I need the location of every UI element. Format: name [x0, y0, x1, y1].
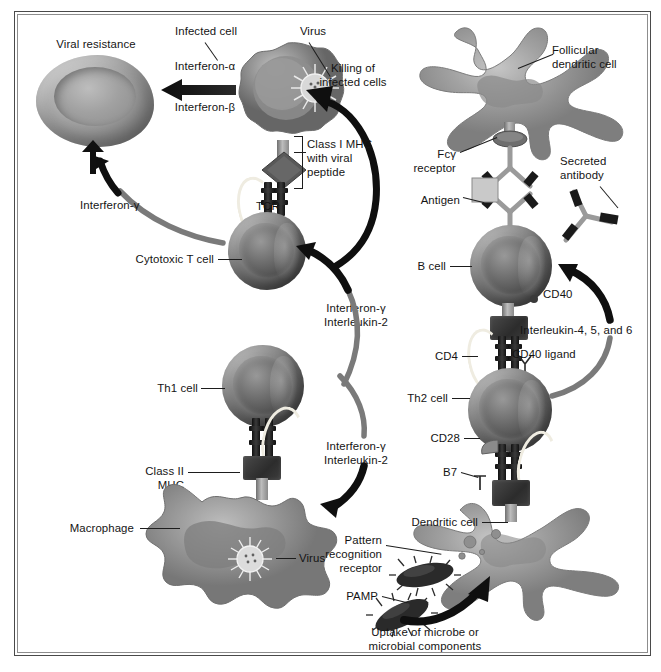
label-pattern-recognition-1: Pattern: [308, 534, 382, 547]
label-cd28: CD28: [404, 432, 460, 445]
secreted-antibody: [562, 188, 630, 248]
cell-nucleus: [54, 67, 137, 126]
label-dendritic-cell: Dendritic cell: [386, 516, 478, 529]
antibody-antigen-complex: [468, 142, 556, 238]
leader-th2-cell: [452, 398, 470, 399]
immunology-diagram: Viral resistance Infected cell Virus: [0, 0, 661, 672]
label-th1-cell: Th1 cell: [130, 382, 198, 395]
label-class-i-mhc-3: peptide: [307, 166, 345, 179]
cell-nucleus: [239, 223, 294, 278]
label-interferon-gamma-left: Interferon-γ: [80, 199, 139, 212]
label-b-cell: B cell: [398, 260, 446, 273]
leader-cd28: [464, 438, 480, 439]
label-fcgamma-1: Fcγ: [396, 148, 456, 161]
cell-nucleus: [479, 379, 539, 439]
leader-cytotoxic-t-cell: [218, 259, 242, 260]
leader-b-cell: [450, 266, 472, 267]
label-cd4: CD4: [414, 350, 458, 363]
label-th2-cell: Th2 cell: [392, 392, 448, 405]
label-macrophage: Macrophage: [48, 522, 134, 535]
leader-virus-bottom: [276, 558, 296, 559]
bracket-class-i-mhc-mid: [294, 152, 306, 153]
label-viral-resistance: Viral resistance: [21, 38, 171, 51]
arrow-interferon-alpha-beta: [158, 78, 236, 102]
arrow-interleukins-th2-to-b: [530, 256, 622, 404]
leader-th1-cell: [201, 388, 225, 389]
label-follicular-dendritic-2: dendritic cell: [552, 58, 617, 71]
leader-dendritic-cell: [482, 522, 508, 523]
label-class-i-mhc-1: Class I MHC: [307, 138, 372, 151]
label-infected-cell: Infected cell: [160, 25, 252, 38]
cd28-receptor: [478, 436, 500, 456]
label-secreted-antibody-2: antibody: [560, 169, 604, 182]
label-uptake-2: microbial components: [330, 640, 520, 653]
label-uptake-1: Uptake of microbe or: [330, 626, 520, 639]
label-follicular-dendritic-1: Follicular: [552, 44, 599, 57]
arrow-cytokines-th1-to-ctl: [292, 232, 364, 392]
label-class-i-mhc-2: with viral: [307, 152, 352, 165]
label-killing-line1: Killing of: [300, 62, 406, 75]
arrow-up-viral-resistance: [80, 140, 106, 174]
label-b7: B7: [443, 466, 457, 479]
label-pattern-recognition-3: receptor: [308, 562, 382, 575]
bracket-class-i-mhc-v: [302, 136, 303, 188]
label-secreted-antibody-1: Secreted: [560, 155, 606, 168]
label-antigen: Antigen: [398, 194, 460, 207]
class-ii-mhc-box: [243, 456, 281, 480]
leader-macrophage: [140, 528, 180, 529]
bracket-class-i-mhc-bottom: [294, 188, 303, 189]
label-pamp: PAMP: [318, 590, 378, 603]
viral-resistance-cell: [36, 55, 154, 147]
label-interferon-beta: Interferon-β: [150, 101, 260, 114]
label-class-ii-mhc-1: Class II: [120, 465, 184, 478]
virus-particle-macrophage: [226, 535, 274, 583]
label-pattern-recognition-2: recognition: [308, 548, 382, 561]
label-virus-top: Virus: [288, 25, 338, 38]
leader-class-ii-mhc: [188, 472, 240, 473]
label-interferon-alpha: Interferon-α: [150, 60, 260, 73]
bracket-class-i-mhc-top: [294, 136, 303, 137]
label-fcgamma-2: receptor: [396, 162, 456, 175]
leader-cd4: [462, 356, 478, 357]
label-cytotoxic-t-cell: Cytotoxic T cell: [110, 253, 214, 266]
arrow-uptake: [400, 570, 510, 628]
